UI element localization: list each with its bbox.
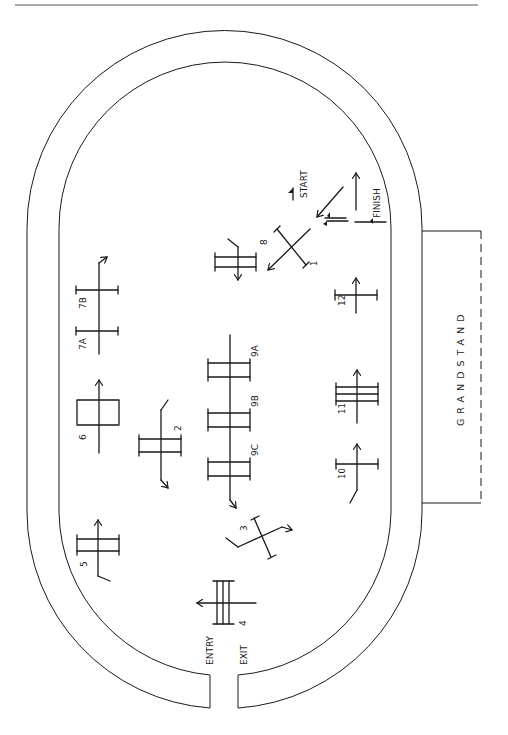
obstacle-9b-label: 9B	[250, 395, 260, 407]
obstacle-1-label: 1	[309, 261, 319, 266]
obstacle-1: 1	[268, 226, 319, 270]
obstacle-5: 5	[77, 520, 119, 581]
obstacle-3-label: 3	[239, 525, 249, 531]
start-label: START	[299, 170, 309, 198]
obstacle-6: 6	[77, 380, 119, 453]
obstacle-4: 4	[197, 581, 256, 626]
obstacle-4-label: 4	[238, 620, 248, 626]
arena-course-diagram: GRANDSTAND ENTRY EXIT START FINISH 1	[0, 0, 508, 735]
grandstand-label: GRANDSTAND	[455, 309, 466, 426]
inner-track-boundary	[59, 62, 391, 675]
obstacle-11-label: 11	[337, 403, 347, 414]
obstacle-6-label: 6	[78, 434, 88, 440]
outer-track-boundary	[27, 31, 422, 709]
obstacle-5-label: 5	[79, 561, 89, 567]
obstacle-12: 12	[335, 278, 377, 313]
obstacle-12-label: 12	[337, 295, 347, 306]
obstacle-2-label: 2	[173, 425, 183, 431]
obstacle-10: 10	[336, 444, 378, 503]
grandstand: GRANDSTAND	[422, 231, 481, 503]
start-marker: START	[288, 170, 309, 200]
obstacle-9: 9A 9B 9C	[208, 335, 260, 508]
obstacle-9c-label: 9C	[250, 444, 260, 456]
obstacle-9a-label: 9A	[250, 344, 260, 357]
obstacle-11: 11	[336, 370, 378, 423]
finish-marker: FINISH	[355, 188, 386, 224]
finish-label: FINISH	[372, 188, 382, 218]
obstacle-2: 2	[139, 400, 183, 488]
exit-label: EXIT	[239, 644, 249, 665]
entry-label: ENTRY	[205, 635, 215, 665]
obstacle-7: 7B 7A	[76, 257, 118, 354]
obstacle-7a-label: 7A	[78, 337, 88, 350]
obstacle-3: 3	[226, 516, 292, 559]
obstacle-7b-label: 7B	[78, 297, 88, 309]
obstacle-8-label: 8	[259, 239, 269, 245]
obstacle-10-label: 10	[337, 468, 347, 479]
start-line-flags	[323, 212, 348, 226]
obstacle-8: 8	[215, 239, 269, 280]
